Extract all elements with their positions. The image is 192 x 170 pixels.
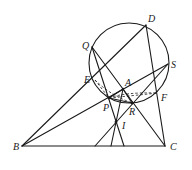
point-r [131,102,134,105]
label-d: D [147,13,156,24]
diagram-canvas: D Q S E A F P R I B C [0,0,192,170]
label-s: S [171,59,176,70]
label-c: C [170,141,177,152]
label-i: I [121,120,126,131]
circumcircle [89,23,169,103]
segment-bs [22,64,168,146]
point-a [122,88,124,90]
label-e: E [83,74,90,85]
label-r: R [128,106,135,117]
point-p [108,97,111,100]
label-b: B [13,141,19,152]
label-q: Q [82,40,90,51]
label-a: A [124,77,132,88]
label-p: P [102,102,109,113]
label-f: F [160,92,168,103]
dashed-ep [95,80,109,98]
segment-qc [92,47,165,146]
point-i [115,121,118,124]
geometry-diagram: D Q S E A F P R I B C [0,0,192,170]
